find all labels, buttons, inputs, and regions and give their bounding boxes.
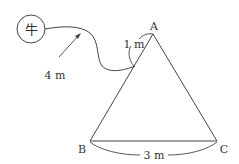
vertex-b-label: B — [78, 143, 86, 156]
vertex-a-label: A — [149, 20, 159, 33]
base-length-label: 3 m — [144, 149, 165, 162]
rope-arrow — [59, 35, 79, 57]
rope-length-label: 4 m — [45, 69, 66, 82]
vertex-c-label: C — [220, 143, 228, 156]
rope-path — [45, 27, 135, 71]
diagram-canvas: 牛 4 m 1 m A B C 3 m — [0, 0, 239, 164]
cow-label: 牛 — [25, 22, 38, 37]
triangle-diagram: 牛 4 m 1 m A B C 3 m — [0, 0, 239, 164]
segment-length-label: 1 m — [124, 38, 145, 51]
triangle-abc — [90, 34, 217, 141]
